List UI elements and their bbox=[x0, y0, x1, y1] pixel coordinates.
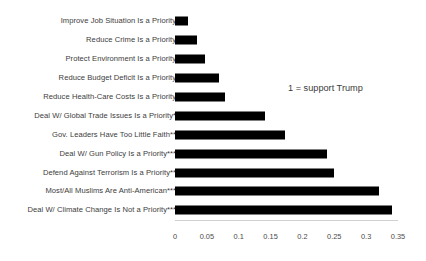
bar-track bbox=[175, 55, 398, 64]
x-tick-label: 0.35 bbox=[391, 232, 405, 241]
x-tick-label: 0.3 bbox=[361, 232, 371, 241]
category-label: Gov. Leaders Have Too Little Faith** bbox=[52, 131, 176, 139]
bar-track bbox=[175, 111, 398, 120]
bar bbox=[175, 93, 225, 102]
bar-track bbox=[175, 36, 398, 45]
bar-row: Gov. Leaders Have Too Little Faith** bbox=[0, 125, 426, 144]
bar-row: Deal W/ Global Trade Issues Is a Priorit… bbox=[0, 106, 426, 125]
chart-annotation: 1 = support Trump bbox=[288, 83, 363, 93]
chart-plot-area: Improve Job Situation Is a PriorityReduc… bbox=[0, 12, 426, 220]
bar-track bbox=[175, 93, 398, 102]
bar-track bbox=[175, 149, 398, 158]
bar-track bbox=[175, 17, 398, 26]
bar-row: Deal W/ Climate Change Is Not a Priority… bbox=[0, 201, 426, 220]
category-label: Reduce Crime Is a Priority bbox=[86, 37, 176, 45]
category-label: Deal W/ Gun Policy Is a Priority*** bbox=[59, 150, 176, 158]
bar bbox=[175, 168, 334, 177]
x-tick-label: 0.25 bbox=[327, 232, 341, 241]
bar bbox=[175, 206, 392, 215]
category-label: Most/All Muslims Are Anti-American*** bbox=[45, 188, 176, 196]
bar-row: Defend Against Terrorism Is a Priority** bbox=[0, 163, 426, 182]
category-label: Deal W/ Global Trade Issues Is a Priorit… bbox=[34, 112, 176, 120]
x-tick-label: 0.05 bbox=[200, 232, 214, 241]
bar bbox=[175, 17, 188, 26]
category-label: Deal W/ Climate Change Is Not a Priority… bbox=[27, 207, 176, 215]
bar-track bbox=[175, 168, 398, 177]
bar-track bbox=[175, 187, 398, 196]
bar bbox=[175, 111, 265, 120]
x-tick-label: 0.2 bbox=[297, 232, 307, 241]
x-tick-label: 0.1 bbox=[234, 232, 244, 241]
bar bbox=[175, 130, 285, 139]
bar-row: Most/All Muslims Are Anti-American*** bbox=[0, 182, 426, 201]
category-label: Improve Job Situation Is a Priority bbox=[61, 18, 176, 26]
bar bbox=[175, 149, 327, 158]
bar bbox=[175, 36, 197, 45]
bar-row: Deal W/ Gun Policy Is a Priority*** bbox=[0, 144, 426, 163]
x-tick-label: 0 bbox=[173, 232, 177, 241]
bar-row: Protect Environment Is a Priority bbox=[0, 50, 426, 69]
x-tick-label: 0.15 bbox=[263, 232, 277, 241]
bar-row: Improve Job Situation Is a Priority bbox=[0, 12, 426, 31]
category-label: Protect Environment Is a Priority bbox=[65, 55, 176, 63]
bar-track bbox=[175, 130, 398, 139]
category-label: Reduce Budget Deficit Is a Priority bbox=[59, 74, 176, 82]
bar-track bbox=[175, 74, 398, 83]
bar bbox=[175, 74, 219, 83]
category-label: Defend Against Terrorism Is a Priority** bbox=[43, 169, 176, 177]
bar bbox=[175, 187, 379, 196]
bar-row: Reduce Crime Is a Priority bbox=[0, 31, 426, 50]
bar bbox=[175, 55, 205, 64]
x-axis-tick-labels: 00.050.10.150.20.250.30.35 bbox=[175, 232, 398, 244]
bar-track bbox=[175, 206, 398, 215]
category-label: Reduce Health-Care Costs Is a Priority bbox=[43, 93, 176, 101]
x-axis-line bbox=[175, 220, 398, 221]
bar-chart: Improve Job Situation Is a PriorityReduc… bbox=[0, 0, 426, 261]
